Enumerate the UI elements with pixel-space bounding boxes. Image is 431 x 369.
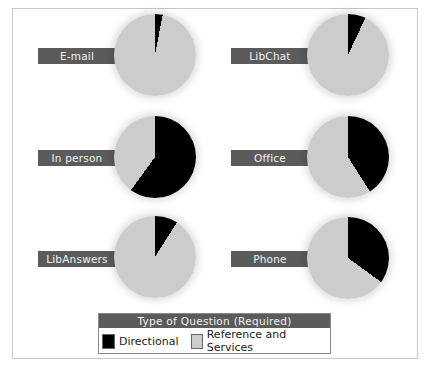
panel-label-email: E-mail [38,48,116,64]
legend-item-reference: Reference and Services [191,328,328,354]
pie-libchat [307,14,389,96]
legend: Type of Question (Required) Directional … [98,313,331,354]
panel-label-office: Office [231,150,309,166]
panel-label-phone: Phone [231,251,309,267]
panel-label-libanswers: LibAnswers [38,251,116,267]
panel-label-libchat: LibChat [231,48,309,64]
legend-body: Directional Reference and Services [99,328,330,354]
legend-label-directional: Directional [119,335,179,348]
panel-label-in-person: In person [38,150,116,166]
reference-swatch-icon [191,334,203,349]
pie-phone [307,217,389,299]
legend-title: Type of Question (Required) [99,314,330,328]
pie-office [307,116,389,198]
pie-libanswers [114,216,196,298]
pie-email [114,14,196,96]
pie-in-person [114,116,196,198]
legend-label-reference: Reference and Services [207,328,327,354]
legend-item-directional: Directional [102,334,179,349]
directional-swatch-icon [102,334,115,349]
